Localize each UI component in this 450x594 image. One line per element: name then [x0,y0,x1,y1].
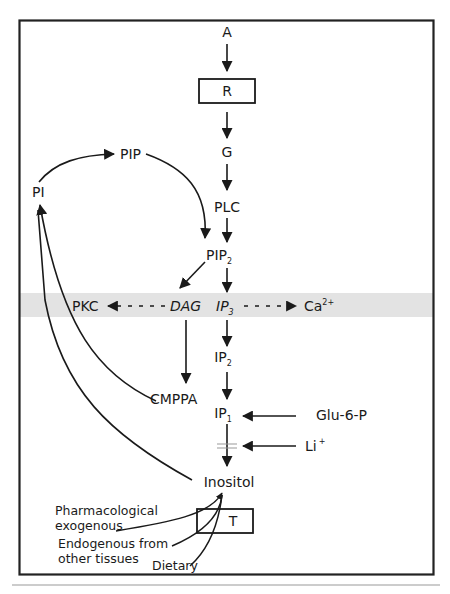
source-dietary: Dietary [152,558,198,573]
inositol-pathway-diagram: A R G PLC PIP2 PKC DAG IP3 Ca2+ IP2 CMPP… [0,0,450,594]
pi-label: PI [32,184,45,200]
inositol-label: Inositol [204,474,255,490]
source-endogenous-line1: Endogenous from [58,536,168,551]
g-protein-label: G [222,144,233,160]
agonist-label: A [222,24,232,40]
source-pharmacological-line1: Pharmacological [55,503,158,518]
cmppa-label: CMPPA [150,391,198,407]
ip1-label: IP1 [214,405,232,424]
source-endogenous-line2: other tissues [58,551,139,566]
arrow-pi-to-pip [39,154,114,182]
ip2-label: IP2 [214,349,232,368]
glu6p-label: Glu-6-P [316,407,367,423]
pkc-label: PKC [72,298,99,314]
plc-label: PLC [214,199,240,215]
lithium-label: Li+ [305,437,325,454]
line-inositol-to-pi-a [38,210,192,480]
dag-label: DAG [170,298,201,314]
arrow-pip2-to-dag [180,262,205,288]
transporter-box [197,509,253,533]
receptor-label: R [222,83,232,99]
transporter-label: T [228,513,238,529]
pip-label: PIP [120,146,141,162]
arrow-pip-to-pip2 [146,154,205,238]
pip2-label: PIP2 [206,247,232,266]
source-pharmacological-line2: exogenous [55,518,123,533]
